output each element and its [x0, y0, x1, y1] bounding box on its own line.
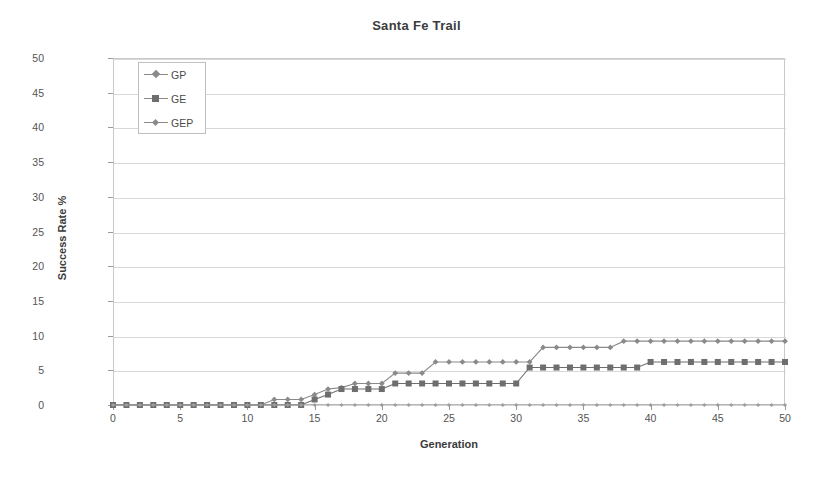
gridline	[114, 163, 786, 164]
x-tick-mark	[382, 405, 383, 410]
x-tick-label: 30	[496, 412, 536, 424]
x-tick-label: 35	[563, 412, 603, 424]
legend: GPGEGEP	[138, 62, 206, 134]
x-tick-label: 5	[160, 412, 200, 424]
y-tick-label: 40	[4, 121, 44, 133]
legend-item-ge[interactable]: GE	[139, 87, 207, 111]
x-tick-mark	[583, 405, 584, 410]
y-tick-mark	[108, 162, 113, 163]
gridline	[114, 94, 786, 95]
y-tick-mark	[108, 266, 113, 267]
y-tick-label: 45	[4, 87, 44, 99]
y-tick-mark	[108, 127, 113, 128]
x-tick-mark	[516, 405, 517, 410]
x-tick-mark	[180, 405, 181, 410]
y-tick-label: 0	[4, 399, 44, 411]
y-tick-label: 15	[4, 295, 44, 307]
legend-item-gep[interactable]: GEP	[139, 111, 207, 135]
gridline	[114, 198, 786, 199]
x-tick-mark	[651, 405, 652, 410]
legend-marker-icon	[152, 95, 159, 102]
gridline	[114, 267, 786, 268]
x-tick-mark	[449, 405, 450, 410]
y-tick-label: 35	[4, 156, 44, 168]
y-tick-mark	[108, 370, 113, 371]
y-tick-label: 30	[4, 191, 44, 203]
y-tick-mark	[108, 58, 113, 59]
x-tick-mark	[785, 405, 786, 410]
x-tick-label: 20	[362, 412, 402, 424]
plot-area	[113, 58, 785, 405]
x-tick-label: 10	[227, 412, 267, 424]
gridline	[114, 371, 786, 372]
legend-label: GE	[171, 93, 186, 105]
legend-swatch	[143, 92, 169, 106]
legend-marker-icon	[152, 119, 159, 126]
gridline	[114, 302, 786, 303]
y-tick-label: 5	[4, 364, 44, 376]
legend-item-gp[interactable]: GP	[139, 63, 207, 87]
gridline	[114, 128, 786, 129]
chart-title: Santa Fe Trail	[0, 18, 833, 33]
x-axis-title: Generation	[113, 438, 785, 450]
x-tick-label: 45	[698, 412, 738, 424]
legend-marker-icon	[152, 70, 160, 78]
legend-label: GEP	[171, 117, 193, 129]
x-tick-mark	[315, 405, 316, 410]
y-tick-label: 25	[4, 226, 44, 238]
x-tick-mark	[718, 405, 719, 410]
y-tick-mark	[108, 93, 113, 94]
y-tick-mark	[108, 336, 113, 337]
chart-canvas: Santa Fe Trail Success Rate % Generation…	[0, 0, 833, 480]
x-tick-mark	[247, 405, 248, 410]
gridline	[114, 233, 786, 234]
x-tick-label: 40	[631, 412, 671, 424]
y-tick-mark	[108, 301, 113, 302]
legend-swatch	[143, 116, 169, 130]
gridline	[114, 59, 786, 60]
y-tick-mark	[108, 197, 113, 198]
y-tick-label: 20	[4, 260, 44, 272]
x-tick-label: 15	[295, 412, 335, 424]
y-tick-mark	[108, 232, 113, 233]
x-tick-label: 0	[93, 412, 133, 424]
legend-swatch	[143, 68, 169, 82]
y-axis-title: Success Rate %	[56, 158, 68, 318]
y-tick-label: 50	[4, 52, 44, 64]
x-tick-label: 50	[765, 412, 805, 424]
gridline	[114, 337, 786, 338]
y-tick-label: 10	[4, 330, 44, 342]
x-tick-mark	[113, 405, 114, 410]
legend-label: GP	[171, 69, 186, 81]
x-tick-label: 25	[429, 412, 469, 424]
